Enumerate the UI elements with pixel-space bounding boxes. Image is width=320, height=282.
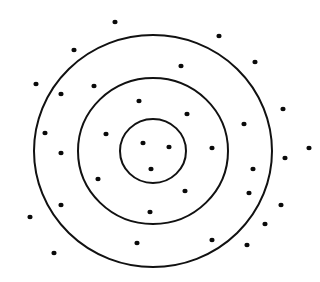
dot (33, 82, 38, 86)
dot (252, 60, 257, 64)
dot (246, 191, 251, 195)
dot (250, 167, 255, 171)
dot (112, 20, 117, 24)
dot (140, 141, 145, 145)
dot (209, 146, 214, 150)
dot (147, 210, 152, 214)
dot (166, 145, 171, 149)
dot (282, 156, 287, 160)
dot (27, 215, 32, 219)
dot (95, 177, 100, 181)
dot (103, 132, 108, 136)
dot (244, 243, 249, 247)
dot (71, 48, 76, 52)
dot (280, 107, 285, 111)
dot (91, 84, 96, 88)
dot (262, 222, 267, 226)
dot (306, 146, 311, 150)
dot (241, 122, 246, 126)
dot (148, 167, 153, 171)
dot (134, 241, 139, 245)
dot (136, 99, 141, 103)
dot (51, 251, 56, 255)
dot (209, 238, 214, 242)
dot (184, 112, 189, 116)
concentric-target-diagram (0, 0, 320, 282)
dot (58, 151, 63, 155)
dot (178, 64, 183, 68)
dot (42, 131, 47, 135)
dot (216, 34, 221, 38)
dot (58, 92, 63, 96)
dot (278, 203, 283, 207)
dot (182, 189, 187, 193)
dot (58, 203, 63, 207)
